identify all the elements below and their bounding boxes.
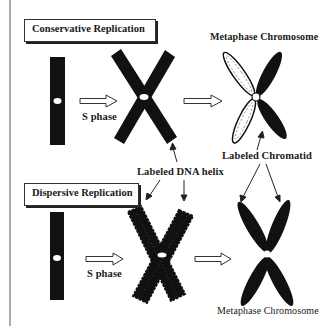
s-phase-label-bottom: S phase (87, 268, 122, 279)
unreplicated-chromosome-bottom (50, 212, 64, 300)
dispersive-title-box: Dispersive Replication (24, 183, 139, 206)
metaphase-label-top: Metaphase Chromosome (210, 31, 318, 42)
conservative-title-box: Conservative Replication (24, 19, 156, 42)
replication-diagram (0, 0, 326, 329)
unreplicated-chromosome-top (50, 57, 65, 145)
dispersive-title: Dispersive Replication (32, 187, 133, 198)
s-phase-arrow-bottom (86, 253, 123, 265)
s-phase-arrow-top (80, 95, 117, 107)
labeled-chromatid-label: Labeled Chromatid (222, 150, 312, 161)
labeled-dna-helix-label: Labeled DNA helix (137, 166, 224, 177)
s-phase-label-top: S phase (82, 111, 117, 122)
metaphase-chromosome-labeled (219, 49, 291, 145)
conservative-title: Conservative Replication (32, 23, 145, 34)
metaphase-chromosome-bottom (233, 198, 298, 309)
replicated-chromosome-bottom (128, 206, 193, 303)
metaphase-arrow-top (184, 95, 222, 107)
metaphase-label-bottom: Metaphase Chromosome (217, 305, 319, 316)
metaphase-arrow-bottom (195, 253, 231, 265)
replicated-chromosome-top (111, 49, 177, 144)
